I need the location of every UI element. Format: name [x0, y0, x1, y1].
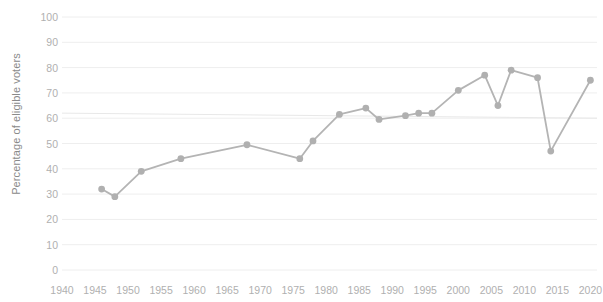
data-point[interactable] [415, 110, 422, 117]
data-point[interactable] [177, 155, 184, 162]
trendline [62, 113, 597, 118]
voter-turnout-chart: Percentage of eligible voters 0102030405… [0, 0, 603, 302]
data-point[interactable] [587, 77, 594, 84]
data-point[interactable] [362, 105, 369, 112]
data-point[interactable] [455, 87, 462, 94]
data-point[interactable] [376, 116, 383, 123]
data-point[interactable] [310, 138, 317, 145]
data-point[interactable] [98, 186, 105, 193]
data-point[interactable] [336, 111, 343, 118]
data-point[interactable] [547, 148, 554, 155]
data-point[interactable] [296, 155, 303, 162]
data-point[interactable] [495, 102, 502, 109]
data-point[interactable] [111, 193, 118, 200]
series-line [102, 70, 591, 197]
data-point[interactable] [402, 112, 409, 119]
gridlines [62, 17, 597, 270]
data-point[interactable] [138, 168, 145, 175]
chart-svg [0, 0, 603, 302]
series-markers [98, 67, 594, 200]
data-point[interactable] [481, 72, 488, 79]
data-point[interactable] [508, 67, 515, 74]
data-point[interactable] [428, 110, 435, 117]
data-point[interactable] [534, 74, 541, 81]
data-point[interactable] [244, 141, 251, 148]
plot-area [0, 0, 603, 302]
